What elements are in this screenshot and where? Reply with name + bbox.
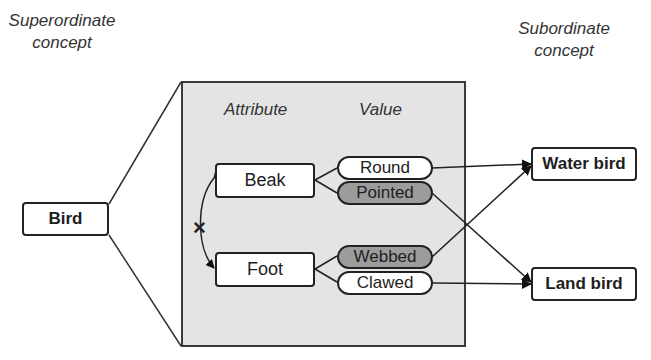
water-bird-concept-box: Water bird	[531, 147, 637, 181]
attribute-foot-box: Foot	[215, 252, 315, 287]
land-bird-concept-box: Land bird	[531, 267, 637, 301]
value-pointed-label: Pointed	[356, 183, 414, 203]
attribute-beak-box: Beak	[215, 163, 315, 198]
value-clawed-label: Clawed	[357, 273, 414, 293]
water-bird-label: Water bird	[542, 154, 625, 174]
value-round-pill: Round	[337, 156, 433, 180]
value-clawed-pill: Clawed	[337, 271, 433, 295]
attribute-beak-label: Beak	[244, 170, 285, 191]
land-bird-label: Land bird	[545, 274, 622, 294]
value-round-label: Round	[360, 158, 410, 178]
value-pointed-pill: Pointed	[337, 181, 433, 205]
value-webbed-pill: Webbed	[337, 245, 433, 269]
attribute-foot-label: Foot	[247, 259, 283, 280]
value-webbed-label: Webbed	[353, 247, 416, 267]
independence-x-marker: ×	[193, 215, 206, 241]
bird-concept-label: Bird	[49, 209, 83, 229]
bird-concept-box: Bird	[22, 202, 109, 236]
